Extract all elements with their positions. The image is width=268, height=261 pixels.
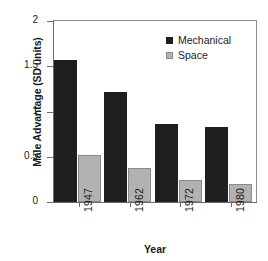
x-axis-tick-label: 1980	[234, 188, 246, 212]
y-axis-tick: 0.5	[47, 157, 54, 158]
x-axis-tick-label: 1972	[183, 188, 195, 212]
legend-item-mechanical: Mechanical	[166, 33, 231, 48]
bar-mechanical-1980	[205, 127, 228, 202]
bar-mechanical-1972	[155, 124, 178, 202]
bar-mechanical-1947	[54, 60, 77, 202]
x-axis-title: Year	[53, 243, 257, 255]
legend-label-mechanical: Mechanical	[178, 33, 231, 48]
y-axis-tick: 0	[47, 202, 54, 203]
legend-label-space: Space	[178, 48, 208, 63]
y-axis-tick: 1	[47, 112, 54, 113]
dark-square-swatch-icon	[166, 37, 173, 44]
y-axis-tick-label: 0.5	[0, 150, 38, 161]
y-axis-tick-label: 1.5	[0, 59, 38, 70]
y-axis-tick: 2	[47, 21, 54, 22]
y-axis-tick-label: 0	[0, 195, 38, 206]
x-axis-tick	[79, 202, 80, 207]
light-square-swatch-icon	[166, 52, 173, 59]
x-axis-tick-label: 1947	[82, 188, 94, 212]
x-axis-tick	[231, 202, 232, 207]
legend-item-space: Space	[166, 48, 231, 63]
x-axis-tick-label: 1962	[133, 188, 145, 212]
y-axis-tick-label: 2	[0, 14, 38, 25]
y-axis-tick-label: 1	[0, 105, 38, 116]
x-axis-tick	[180, 202, 181, 207]
legend: Mechanical Space	[166, 33, 231, 63]
x-axis-tick	[130, 202, 131, 207]
bar-chart-figure: Male Advantage (SD units) 00.511.52 Year…	[0, 0, 268, 261]
bar-mechanical-1962	[104, 92, 127, 202]
y-axis-tick: 1.5	[47, 66, 54, 67]
y-axis-title: Male Advantage (SD units)	[31, 12, 43, 192]
